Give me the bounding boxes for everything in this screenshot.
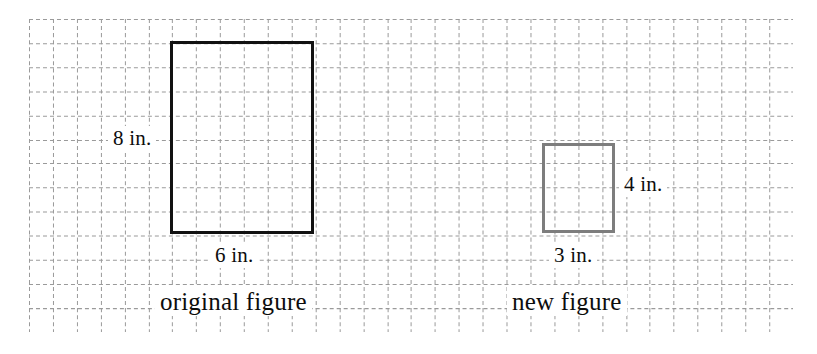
- original-height-label: 8 in.: [113, 128, 151, 149]
- grid-lines: [29, 19, 793, 332]
- original-width-label: 6 in.: [215, 245, 253, 266]
- original-figure-caption: original figure: [160, 289, 307, 314]
- worksheet-canvas: 8 in. 6 in. original figure 4 in. 3 in. …: [0, 0, 817, 354]
- new-height-label: 4 in.: [624, 174, 662, 195]
- original-figure-rectangle: [170, 41, 314, 234]
- new-width-label: 3 in.: [554, 245, 592, 266]
- graph-paper-grid: [29, 19, 793, 332]
- new-figure-rectangle: [542, 143, 615, 233]
- new-figure-caption: new figure: [512, 289, 622, 314]
